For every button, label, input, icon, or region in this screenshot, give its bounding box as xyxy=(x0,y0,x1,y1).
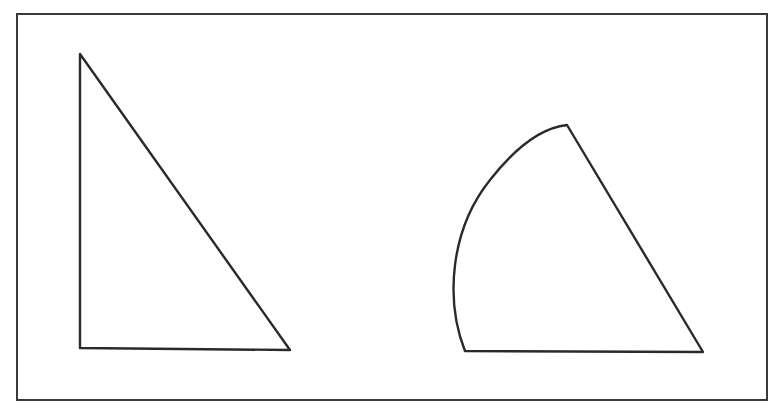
circular-sector xyxy=(454,125,703,352)
diagram-canvas xyxy=(0,0,782,408)
frame-border xyxy=(17,14,767,400)
diagram-svg xyxy=(0,0,782,408)
right-triangle xyxy=(80,54,290,350)
